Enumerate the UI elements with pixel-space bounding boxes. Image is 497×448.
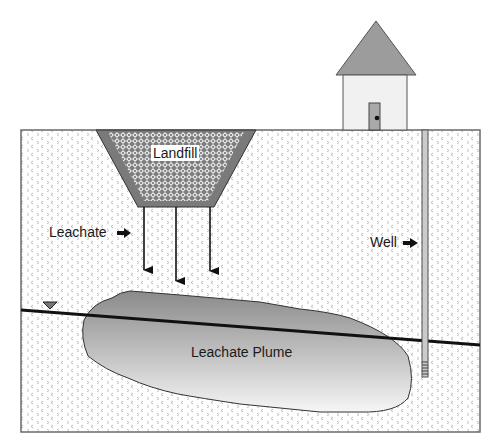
door-knob-icon bbox=[375, 116, 380, 121]
well-casing bbox=[422, 130, 428, 377]
well bbox=[422, 130, 428, 377]
landfill-label: Landfill bbox=[151, 145, 199, 161]
house bbox=[336, 21, 416, 130]
well-label: Well bbox=[370, 234, 397, 250]
plume-label: Leachate Plume bbox=[191, 344, 292, 360]
house-roof bbox=[336, 21, 416, 75]
leachate-label: Leachate bbox=[49, 224, 107, 240]
